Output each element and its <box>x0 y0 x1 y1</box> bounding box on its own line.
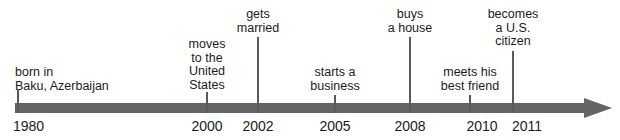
event-label: meets hisbest friend <box>441 66 499 93</box>
timeline-arrow-icon <box>584 98 612 118</box>
event-tick-line <box>334 95 336 113</box>
event-label: starts abusiness <box>310 66 359 93</box>
year-label: 2011 <box>512 117 542 135</box>
event-label-line: gets <box>237 8 279 22</box>
timeline-axis-bar <box>15 103 588 113</box>
event-label-line: best friend <box>441 80 499 94</box>
event-label-line: business <box>310 80 359 94</box>
event-label-line: buys <box>388 8 432 22</box>
event-label-line: to the <box>189 52 226 66</box>
year-label: 2008 <box>394 117 425 135</box>
year-label: 2005 <box>319 117 350 135</box>
event-label: buysa house <box>388 8 432 35</box>
event-label-line: born in <box>15 66 109 80</box>
year-label: 2000 <box>191 117 222 135</box>
event-tick-line <box>17 89 19 113</box>
event-label-line: meets his <box>441 66 499 80</box>
event-label-line: a U.S. <box>488 22 539 36</box>
event-tick-line <box>469 95 471 113</box>
event-label-line: becomes <box>488 8 539 22</box>
event-label-line: citizen <box>488 35 539 49</box>
timeline-figure: born inBaku, Azerbaijanmovesto theUnited… <box>0 0 620 140</box>
event-label: movesto theUnitedStates <box>189 38 226 92</box>
event-label: becomesa U.S.citizen <box>488 8 539 49</box>
event-tick-line <box>409 37 411 113</box>
event-tick-line <box>206 92 208 113</box>
event-label: born inBaku, Azerbaijan <box>15 66 109 93</box>
event-tick-line <box>257 37 259 113</box>
event-label-line: United <box>189 65 226 79</box>
event-label-line: States <box>189 79 226 93</box>
event-tick-line <box>512 51 514 113</box>
event-label-line: married <box>237 22 279 36</box>
event-label-line: Baku, Azerbaijan <box>15 80 109 94</box>
year-label: 2002 <box>242 117 273 135</box>
event-label-line: a house <box>388 22 432 36</box>
event-label-line: starts a <box>310 66 359 80</box>
event-label-line: moves <box>189 38 226 52</box>
year-label: 2010 <box>466 117 497 135</box>
year-label: 1980 <box>13 117 44 135</box>
event-label: getsmarried <box>237 8 279 35</box>
